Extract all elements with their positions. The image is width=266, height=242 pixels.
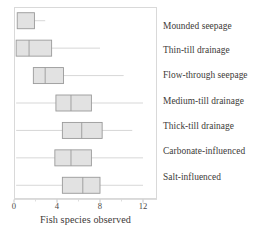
x-tick-label-4: 4	[55, 201, 59, 211]
category-label-thin-till-drainage: Thin-till drainage	[163, 45, 230, 55]
x-tick-label-8: 8	[98, 201, 102, 211]
x-axis	[14, 200, 157, 203]
category-label-flow-through-seepage: Flow-through seepage	[163, 70, 248, 80]
category-label-mounded-seepage: Mounded seepage	[163, 21, 232, 31]
boxplot-figure: Mounded seepage Thin-till drainage Flow-…	[0, 0, 266, 242]
category-label-thick-till-drainage: Thick-till drainage	[163, 121, 234, 131]
plot-area-frame	[14, 7, 157, 199]
x-axis-title: Fish species observed	[14, 214, 157, 225]
category-label-medium-till-drainage: Medium-till drainage	[163, 96, 244, 106]
category-label-carbonate-influenced: Carbonate-influenced	[163, 146, 245, 156]
x-tick-label-0: 0	[12, 201, 16, 211]
x-tick-label-12: 12	[139, 201, 148, 211]
category-label-salt-influenced: Salt-influenced	[163, 172, 221, 182]
